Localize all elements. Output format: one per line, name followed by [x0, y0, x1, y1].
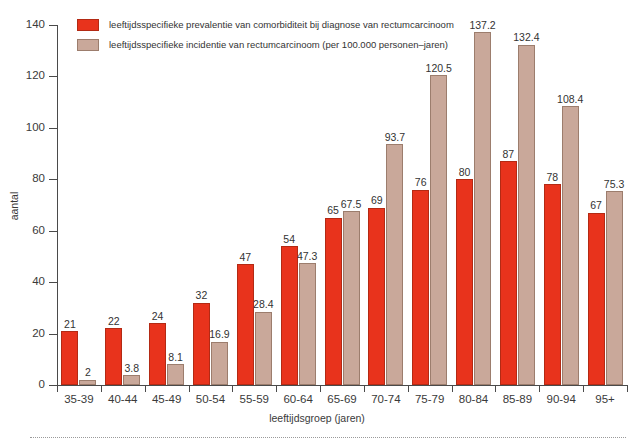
chart-legend: leeftijdsspecifieke prevalentie van como… [77, 16, 454, 56]
x-axis-tick [57, 385, 58, 392]
y-axis-tick [49, 179, 57, 180]
y-axis-tick [49, 231, 57, 232]
bar-prevalence [588, 213, 605, 385]
footer-divider [30, 437, 626, 439]
y-axis-tick [49, 282, 57, 283]
x-axis-tick [101, 385, 102, 392]
y-axis-tick [49, 385, 57, 386]
x-axis-tick [627, 385, 628, 392]
x-axis-category-label: 95+ [575, 394, 634, 406]
x-axis-tick [232, 385, 233, 392]
bar-group: 6775.3 [57, 25, 627, 385]
bar-value-incidence: 75.3 [594, 179, 634, 190]
x-axis-tick [583, 385, 584, 392]
x-axis-tick [364, 385, 365, 392]
y-axis-label: aantal [8, 171, 20, 241]
plot-area: 212223.8248.13216.94728.45447.36567.5699… [57, 25, 627, 385]
x-axis-title: leeftijdsgroep (jaren) [0, 412, 634, 424]
y-axis-tick [49, 25, 57, 26]
legend-item-prevalence: leeftijdsspecifieke prevalentie van como… [77, 16, 454, 33]
y-axis-tick [49, 334, 57, 335]
legend-label-prevalence: leeftijdsspecifieke prevalentie van como… [109, 19, 454, 30]
y-axis-tick [49, 76, 57, 77]
bar-incidence [606, 191, 623, 385]
x-axis-tick [189, 385, 190, 392]
x-axis-tick [539, 385, 540, 392]
legend-swatch-incidence-icon [77, 39, 99, 51]
x-axis-tick [495, 385, 496, 392]
x-axis-tick [276, 385, 277, 392]
y-axis-label-wrap: aantal [0, 0, 34, 446]
y-axis-tick [49, 128, 57, 129]
x-axis-tick [145, 385, 146, 392]
x-axis-line [57, 385, 627, 386]
legend-label-incidence: leeftijdsspecifieke incidentie van rectu… [109, 39, 448, 50]
bar-chart: 020406080100120140 aantal 212223.8248.13… [0, 0, 634, 446]
x-axis-tick [452, 385, 453, 392]
x-axis-tick [408, 385, 409, 392]
x-axis-tick [320, 385, 321, 392]
legend-item-incidence: leeftijdsspecifieke incidentie van rectu… [77, 36, 454, 53]
legend-swatch-prevalence-icon [77, 19, 99, 31]
